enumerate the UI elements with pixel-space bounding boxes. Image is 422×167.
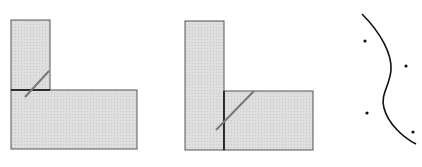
figure-2: [185, 21, 313, 150]
fig2-horizontal-block: [224, 91, 313, 150]
fig3-point-3: [365, 111, 368, 114]
fig3-curve: [362, 14, 416, 144]
diagram-canvas: [0, 0, 422, 167]
fig1-horizontal-block: [11, 90, 137, 149]
fig2-vertical-block: [185, 21, 224, 150]
fig3-point-1: [363, 39, 366, 42]
fig3-point-4: [411, 130, 414, 133]
fig3-point-2: [404, 64, 407, 67]
fig1-vertical-block: [11, 20, 50, 90]
figure-1: [11, 20, 137, 149]
figure-3: [362, 14, 416, 144]
